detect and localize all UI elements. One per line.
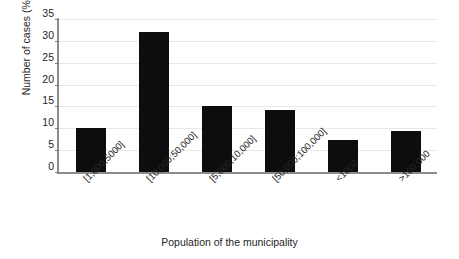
y-axis-tick-label: 10	[34, 117, 54, 128]
y-axis-tick-label: 15	[34, 95, 54, 106]
y-axis-tick-mark	[55, 63, 59, 64]
y-axis-title: Number of cases (%)	[20, 0, 32, 116]
y-axis-tick-label: 20	[34, 73, 54, 84]
bar	[139, 32, 169, 172]
y-axis-tick-mark	[55, 150, 59, 151]
y-axis-tick-label: 25	[34, 51, 54, 62]
x-axis-title: Population of the municipality	[0, 236, 459, 249]
y-axis-tick-mark	[55, 85, 59, 86]
y-axis-tick-mark	[55, 172, 59, 173]
bar-chart-figure: Number of cases (%) 05101520253035 [1,00…	[0, 0, 459, 259]
y-axis-tick-mark	[55, 128, 59, 129]
y-axis-tick-mark	[55, 106, 59, 107]
y-axis-tick-mark	[55, 19, 59, 20]
y-axis-tick-labels: 05101520253035	[34, 13, 54, 173]
y-axis-tick-label: 5	[34, 139, 54, 150]
x-axis-tick-labels: [1,000;5000][10,000;50,000][5,000;10,000…	[59, 174, 437, 232]
y-axis-tick-label: 30	[34, 29, 54, 40]
y-axis-tick-label: 35	[34, 8, 54, 19]
y-axis-tick-mark	[55, 41, 59, 42]
y-axis-tick-label: 0	[34, 161, 54, 172]
